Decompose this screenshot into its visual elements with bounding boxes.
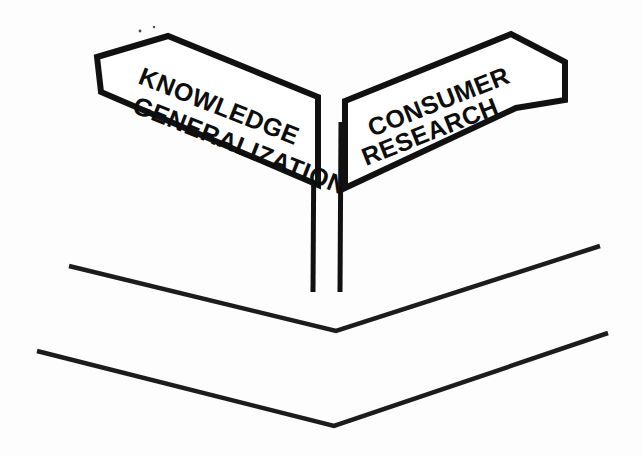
ink-speck — [153, 26, 155, 28]
ink-speck — [471, 87, 473, 89]
ink-speck — [139, 30, 142, 33]
signpost-illustration: KNOWLEDGE GENERALIZATION CONSUMER RESEAR… — [0, 0, 643, 456]
illustration-canvas: KNOWLEDGE GENERALIZATION CONSUMER RESEAR… — [0, 0, 643, 456]
post-right-edge — [340, 122, 341, 292]
